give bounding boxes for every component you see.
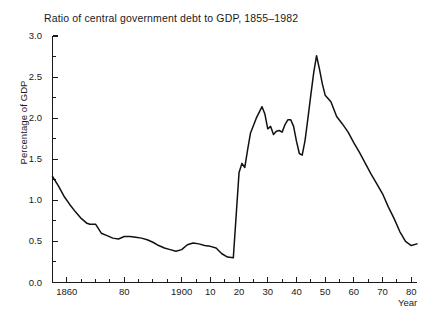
data-series-group bbox=[53, 56, 418, 258]
chart-container: Ratio of central government debt to GDP,… bbox=[0, 0, 430, 319]
plot-area bbox=[0, 0, 430, 319]
ticks-group bbox=[53, 36, 412, 283]
data-line-debt-to-gdp bbox=[53, 56, 418, 258]
